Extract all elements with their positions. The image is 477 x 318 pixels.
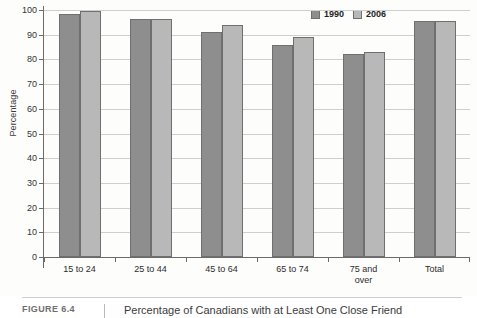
- bar-chart: Percentage 1990 2006 1009080706050403020…: [0, 0, 477, 296]
- bar-1990: [343, 54, 364, 257]
- x-tick-mark: [115, 257, 116, 262]
- bar-1990: [130, 19, 151, 257]
- caption-divider-rule: [22, 297, 462, 298]
- caption-vertical-rule: [104, 304, 105, 318]
- x-tick-mark: [186, 257, 187, 262]
- bar-2006: [80, 11, 101, 257]
- bar-group: [257, 10, 328, 257]
- y-tick-label: 50: [27, 129, 37, 139]
- bar-2006: [222, 25, 243, 257]
- x-axis-category-label: 25 to 44: [115, 264, 186, 286]
- bar-1990: [59, 14, 80, 257]
- x-axis-category-label: 45 to 64: [186, 264, 257, 286]
- y-tick-label: 0: [32, 252, 37, 262]
- figure-number: FIGURE 6.4: [22, 304, 104, 314]
- bar-group: [115, 10, 186, 257]
- bar-1990: [272, 45, 293, 257]
- x-axis-category-label: Total: [399, 264, 470, 286]
- x-tick-mark: [469, 257, 470, 262]
- y-tick-label: 80: [27, 54, 37, 64]
- y-tick-label: 40: [27, 153, 37, 163]
- bar-1990: [201, 32, 222, 257]
- figure-container: Percentage 1990 2006 1009080706050403020…: [0, 0, 477, 318]
- x-tick-mark: [44, 257, 45, 262]
- bar-2006: [151, 19, 172, 257]
- x-axis-category-label: 65 to 74: [257, 264, 328, 286]
- y-tick-label: 90: [27, 30, 37, 40]
- x-tick-mark: [328, 257, 329, 262]
- x-tick-mark: [399, 257, 400, 262]
- y-tick-label: 70: [27, 79, 37, 89]
- bar-group: [44, 10, 115, 257]
- bar-groups: [44, 10, 470, 257]
- bar-2006: [364, 52, 385, 257]
- figure-caption-band: FIGURE 6.4 Percentage of Canadians with …: [0, 296, 477, 318]
- bar-group: [399, 10, 470, 257]
- bar-2006: [435, 21, 456, 257]
- bar-group: [186, 10, 257, 257]
- y-tick-label: 30: [27, 178, 37, 188]
- x-tick-mark: [257, 257, 258, 262]
- x-axis-labels: 15 to 2425 to 4445 to 6465 to 7475 and o…: [44, 264, 470, 286]
- y-tick-label: 100: [22, 5, 37, 15]
- y-tick-label: 10: [27, 227, 37, 237]
- bar-1990: [414, 21, 435, 257]
- y-tick-label: 20: [27, 203, 37, 213]
- y-axis-title: Percentage: [8, 68, 18, 158]
- bar-2006: [293, 37, 314, 257]
- y-tick-label: 60: [27, 104, 37, 114]
- plot-area: 1009080706050403020100: [44, 10, 470, 257]
- x-axis-category-label: 75 and over: [328, 264, 399, 286]
- figure-caption-text: Percentage of Canadians with at Least On…: [124, 304, 402, 316]
- x-axis-category-label: 15 to 24: [44, 264, 115, 286]
- bar-group: [328, 10, 399, 257]
